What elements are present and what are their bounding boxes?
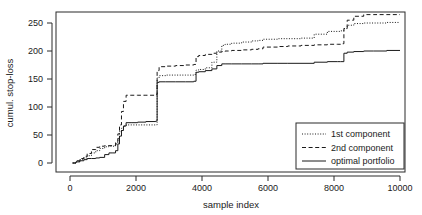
- y-axis-label: cumul. stop-loss: [4, 58, 15, 127]
- legend-label-1: 1st component: [331, 129, 391, 139]
- y-tick-label: 200: [28, 46, 43, 56]
- x-axis-label: sample index: [203, 199, 259, 210]
- chart-legend: 1st component2nd componentoptimal portfo…: [296, 123, 404, 169]
- x-tick-label: 10000: [387, 183, 412, 193]
- x-tick-label: 6000: [258, 183, 278, 193]
- chart-figure: 0200040006000800010000 050100150200250 s…: [0, 0, 422, 215]
- y-tick-label: 150: [28, 74, 43, 84]
- y-tick-label: 100: [28, 102, 43, 112]
- x-tick-label: 4000: [192, 183, 212, 193]
- x-tick-label: 2000: [126, 183, 146, 193]
- x-tick-label: 8000: [324, 183, 344, 193]
- y-tick-label: 250: [28, 18, 43, 28]
- x-tick-label: 0: [67, 183, 72, 193]
- y-tick-label: 50: [33, 130, 43, 140]
- y-tick-label: 0: [38, 158, 43, 168]
- chart-plot-area: 0200040006000800010000 050100150200250 s…: [0, 0, 422, 215]
- legend-label-2: 2nd component: [331, 143, 394, 153]
- y-axis-ticks: 050100150200250: [28, 18, 52, 168]
- legend-label-3: optimal portfolio: [331, 156, 395, 166]
- x-axis-ticks: 0200040006000800010000: [67, 176, 412, 193]
